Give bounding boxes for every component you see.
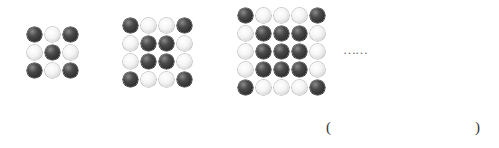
black-bead [159, 36, 174, 51]
black-bead [141, 36, 156, 51]
white-bead [45, 63, 60, 78]
answer-open-paren: ( [326, 119, 331, 136]
black-bead [238, 80, 253, 95]
white-bead [292, 8, 307, 23]
bead-pattern-3x3 [27, 27, 78, 78]
white-bead [310, 62, 325, 77]
black-bead [274, 44, 289, 59]
black-bead [256, 26, 271, 41]
white-bead [256, 80, 271, 95]
white-bead [177, 54, 192, 69]
black-bead [256, 44, 271, 59]
black-bead [45, 45, 60, 60]
white-bead [274, 80, 289, 95]
white-bead [177, 36, 192, 51]
black-bead [292, 44, 307, 59]
black-bead [27, 27, 42, 42]
white-bead [256, 8, 271, 23]
white-bead [310, 26, 325, 41]
white-bead [141, 72, 156, 87]
black-bead [177, 72, 192, 87]
white-bead [238, 44, 253, 59]
answer-close-paren: ) [475, 119, 480, 136]
bead-pattern-4x4 [123, 18, 192, 87]
black-bead [63, 63, 78, 78]
black-bead [159, 54, 174, 69]
white-bead [123, 36, 138, 51]
black-bead [141, 54, 156, 69]
black-bead [177, 18, 192, 33]
black-bead [238, 8, 253, 23]
white-bead [274, 8, 289, 23]
black-bead [310, 80, 325, 95]
white-bead [238, 26, 253, 41]
white-bead [141, 18, 156, 33]
black-bead [256, 62, 271, 77]
white-bead [159, 72, 174, 87]
black-bead [123, 72, 138, 87]
white-bead [123, 54, 138, 69]
black-bead [274, 62, 289, 77]
continuation-ellipsis: …… [343, 42, 367, 58]
white-bead [310, 44, 325, 59]
black-bead [27, 63, 42, 78]
black-bead [123, 18, 138, 33]
white-bead [63, 45, 78, 60]
bead-pattern-5x5 [238, 8, 325, 95]
white-bead [292, 80, 307, 95]
black-bead [292, 62, 307, 77]
white-bead [27, 45, 42, 60]
white-bead [159, 18, 174, 33]
black-bead [292, 26, 307, 41]
black-bead [310, 8, 325, 23]
white-bead [45, 27, 60, 42]
black-bead [63, 27, 78, 42]
white-bead [238, 62, 253, 77]
black-bead [274, 26, 289, 41]
